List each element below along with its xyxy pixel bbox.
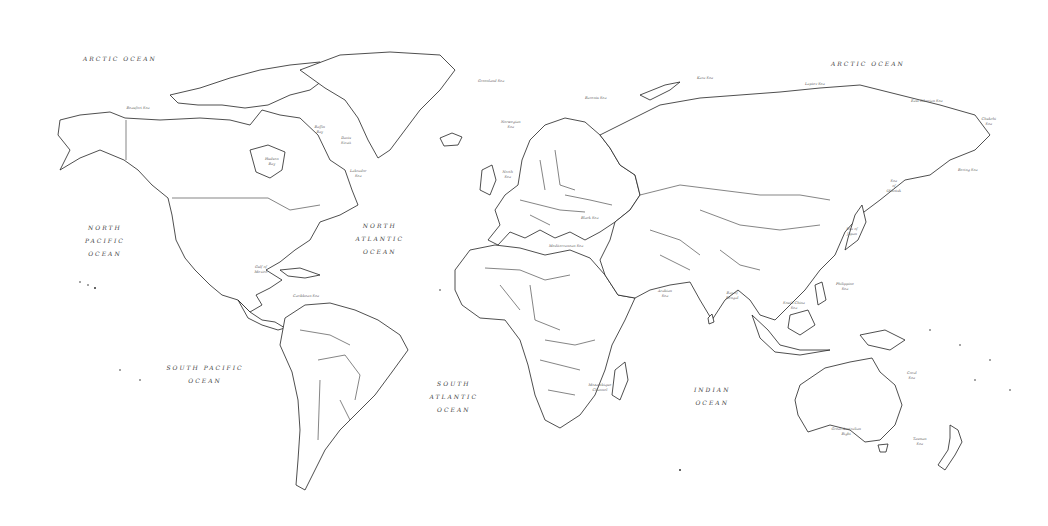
borneo-island bbox=[788, 310, 815, 335]
novaya-zemlya bbox=[640, 82, 680, 100]
great-australian-bight-label: Great Australian Bight bbox=[832, 427, 861, 437]
arctic-ocean-east-label: ARCTIC OCEAN bbox=[831, 57, 905, 70]
iceland-landmass bbox=[440, 133, 462, 146]
indian-ocean-label: INDIAN OCEAN bbox=[694, 383, 730, 409]
black-sea-label: Black Sea bbox=[581, 216, 599, 221]
arctic-ocean-west-label: ARCTIC OCEAN bbox=[83, 52, 157, 65]
philippines-islands bbox=[815, 282, 826, 305]
north-america-landmass bbox=[58, 110, 358, 312]
gulf-of-mexico-label: Gulf of Mexico bbox=[255, 265, 268, 275]
north-sea-label: North Sea bbox=[503, 170, 514, 180]
arabian-sea-label: Arabian Sea bbox=[658, 289, 672, 299]
tasman-sea-label: Tasman Sea bbox=[913, 437, 927, 447]
hudson-bay-label: Hudson Bay bbox=[265, 157, 279, 167]
cuba-island bbox=[280, 268, 320, 278]
bay-of-bengal-label: Bay of Bengal bbox=[726, 291, 738, 301]
philippine-sea-label: Philippine Sea bbox=[836, 282, 854, 292]
south-china-sea-label: South China Sea bbox=[783, 301, 805, 311]
labrador-sea-label: Labrador Sea bbox=[350, 169, 366, 179]
sea-of-japan-label: Sea of Japan bbox=[847, 227, 858, 237]
south-pacific-ocean-label: SOUTH PACIFIC OCEAN bbox=[167, 361, 244, 387]
barents-sea-label: Barents Sea bbox=[585, 96, 607, 101]
mozambique-channel-label: Mozambique Channel bbox=[589, 383, 612, 393]
greenland-landmass bbox=[300, 52, 455, 158]
british-isles bbox=[480, 165, 496, 195]
asia-landmass bbox=[600, 85, 990, 320]
east-siberian-sea-label: East Siberian Sea bbox=[911, 99, 943, 104]
kara-sea-label: Kara Sea bbox=[697, 76, 713, 81]
norwegian-sea-label: Norwegian Sea bbox=[501, 120, 521, 130]
bering-sea-label: Bering Sea bbox=[958, 168, 978, 173]
chukchi-sea-label: Chukchi Sea bbox=[982, 117, 997, 127]
coral-sea-label: Coral Sea bbox=[907, 371, 917, 381]
north-pacific-ocean-label: NORTH PACIFIC OCEAN bbox=[85, 221, 125, 260]
sea-of-okhotsk-label: Sea of Okhotsk bbox=[887, 179, 902, 194]
north-atlantic-ocean-label: NORTH ATLANTIC OCEAN bbox=[356, 219, 405, 258]
world-map bbox=[0, 0, 1048, 526]
new-zealand-islands bbox=[938, 425, 962, 470]
south-america-landmass bbox=[280, 303, 408, 490]
greenland-sea-label: Greenland Sea bbox=[478, 79, 504, 84]
laptev-sea-label: Laptev Sea bbox=[805, 82, 825, 87]
new-guinea-island bbox=[860, 330, 905, 350]
mediterranean-sea-label: Mediterranean Sea bbox=[549, 244, 583, 249]
tasmania-island bbox=[878, 444, 888, 452]
caribbean-sea-label: Caribbean Sea bbox=[293, 294, 319, 299]
davis-strait-label: Davis Strait bbox=[341, 136, 351, 146]
beaufort-sea-label: Beaufort Sea bbox=[127, 106, 150, 111]
baffin-bay-label: Baffin Bay bbox=[315, 125, 326, 135]
south-atlantic-ocean-label: SOUTH ATLANTIC OCEAN bbox=[430, 377, 479, 416]
madagascar-island bbox=[612, 362, 628, 400]
